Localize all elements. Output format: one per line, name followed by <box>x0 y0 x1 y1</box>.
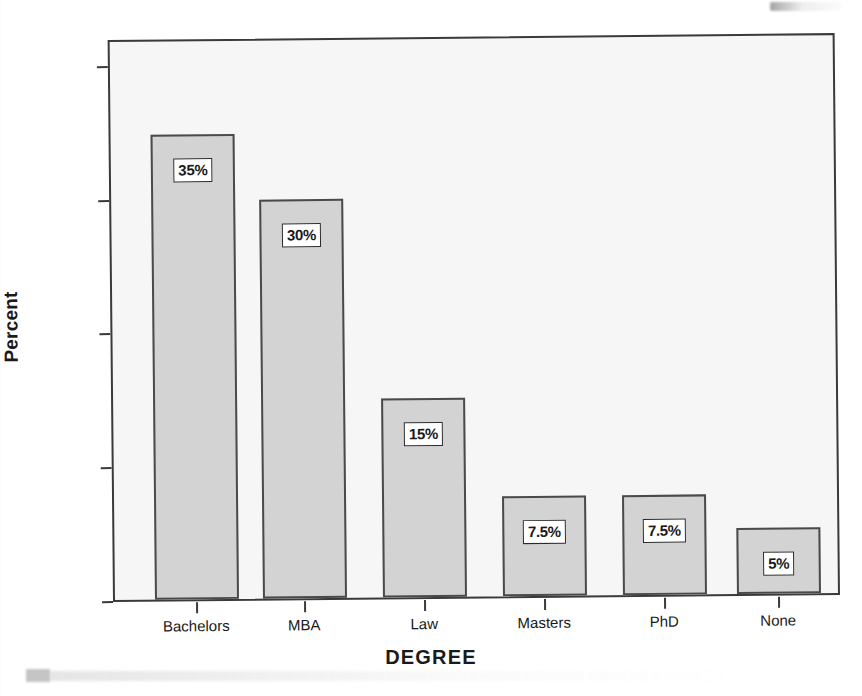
bar-none[interactable]: 5% <box>736 527 821 594</box>
y-axis-title: Percent <box>0 291 23 362</box>
y-tick-mark <box>97 66 108 68</box>
plot-area: 35% 30% 15% 7.5% 7.5% 5% <box>108 33 840 602</box>
x-tick-mark <box>196 602 198 613</box>
x-tick-mark <box>424 600 426 611</box>
chart-skew-wrapper: Percent 40.0% 30.0% 20.0% 10.0% 0.0% 35%… <box>0 0 862 661</box>
y-tick-mark <box>102 601 113 603</box>
x-tick-label: Masters <box>517 614 571 632</box>
bar-law[interactable]: 15% <box>381 397 467 597</box>
x-axis-title: DEGREE <box>0 646 862 669</box>
bar-value-label: 15% <box>404 422 443 446</box>
bar-phd[interactable]: 7.5% <box>622 495 707 595</box>
bar-value-label: 35% <box>173 158 212 182</box>
x-tick-mark <box>664 598 666 609</box>
x-tick-label: PhD <box>650 613 679 630</box>
bar-value-label: 7.5% <box>523 520 566 544</box>
scan-artifact-bottom-left <box>26 669 50 682</box>
bar-value-label: 30% <box>282 223 321 247</box>
bar-chart-figure: Percent 40.0% 30.0% 20.0% 10.0% 0.0% 35%… <box>0 0 862 696</box>
x-tick-mark <box>304 601 306 612</box>
y-tick-mark <box>101 467 112 469</box>
x-axis: Bachelors MBA Law Masters PhD None <box>0 0 856 1</box>
x-tick-label: None <box>760 612 796 629</box>
x-tick-mark <box>544 599 546 610</box>
bar-value-label: 7.5% <box>643 519 686 543</box>
scan-artifact-top-right <box>770 2 842 11</box>
scan-artifact-bottom-strip <box>50 671 750 681</box>
y-tick-mark <box>99 333 110 335</box>
bars-layer: 35% 30% 15% 7.5% 7.5% 5% <box>110 35 838 600</box>
x-tick-mark <box>778 597 780 608</box>
bar-value-label: 5% <box>763 551 794 575</box>
bar-bachelors[interactable]: 35% <box>151 134 239 600</box>
x-tick-label: Bachelors <box>163 617 230 635</box>
bar-mba[interactable]: 30% <box>259 199 347 598</box>
y-tick-mark <box>98 200 109 202</box>
x-tick-label: Law <box>410 615 438 632</box>
x-tick-label: MBA <box>288 616 321 633</box>
bar-masters[interactable]: 7.5% <box>502 496 587 596</box>
